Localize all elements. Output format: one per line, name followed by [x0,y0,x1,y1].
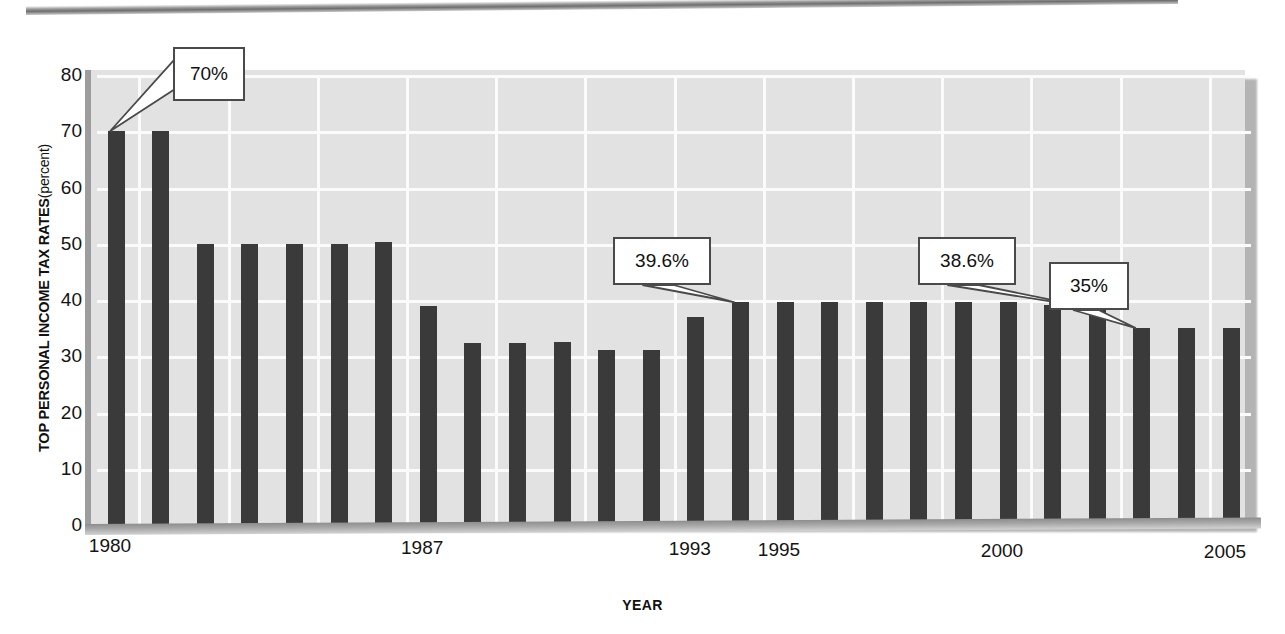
x-axis-title: YEAR [0,597,1285,613]
callout-tail [1073,310,1136,328]
callout-label: 35% [1049,262,1129,310]
